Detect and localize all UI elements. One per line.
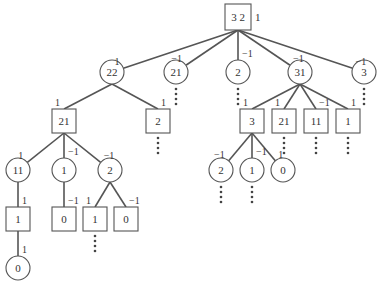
- continuation-dot: [94, 240, 97, 243]
- continuation-dot: [363, 103, 366, 106]
- continuation-dot: [251, 196, 254, 199]
- continuation-dot: [363, 98, 366, 101]
- circle-node: 0: [6, 256, 30, 280]
- node-label: 3: [249, 115, 255, 127]
- node-label: 1: [345, 115, 351, 127]
- continuation-dot: [157, 137, 160, 140]
- edge-label: −1: [68, 195, 79, 206]
- box-node: 2: [146, 109, 170, 133]
- edge-label: −1: [356, 56, 367, 67]
- node-label: 0: [15, 262, 21, 274]
- continuation-dot: [283, 152, 286, 155]
- node-label: 21: [59, 115, 70, 127]
- tree-edge: [95, 182, 110, 207]
- node-label: 1: [249, 164, 255, 176]
- circle-node: 2: [209, 158, 233, 182]
- edge-label: 1: [161, 97, 166, 108]
- continuation-dot: [94, 235, 97, 238]
- box-node: 1: [336, 109, 360, 133]
- edge-label: −1: [242, 48, 253, 59]
- node-label: 0: [61, 213, 67, 225]
- continuation-dot: [283, 147, 286, 150]
- box-node: 0: [114, 207, 138, 231]
- circle-node: 1: [52, 158, 76, 182]
- continuation-dot: [237, 103, 240, 106]
- continuation-dot: [94, 250, 97, 253]
- node-label: 1: [15, 213, 21, 225]
- edge-label: 1: [22, 244, 27, 255]
- continuation-dot: [347, 152, 350, 155]
- continuation-dot: [347, 142, 350, 145]
- edge-label: 1: [18, 150, 23, 161]
- continuation-dot: [157, 152, 160, 155]
- continuation-dot: [157, 147, 160, 150]
- continuation-dot: [237, 98, 240, 101]
- continuation-dot: [220, 196, 223, 199]
- box-node: 1: [83, 207, 107, 231]
- continuation-dot: [220, 201, 223, 204]
- continuation-dot: [175, 103, 178, 106]
- edge-label: −1: [214, 149, 225, 160]
- continuation-dot: [237, 88, 240, 91]
- tree-edge: [27, 133, 64, 162]
- edge-label: −1: [319, 97, 330, 108]
- continuation-dot: [363, 88, 366, 91]
- continuation-dot: [157, 142, 160, 145]
- continuation-dot: [175, 88, 178, 91]
- edge-label: 1: [278, 149, 283, 160]
- root-side-label: 1: [255, 11, 261, 23]
- continuation-dot: [283, 142, 286, 145]
- continuation-dot: [220, 186, 223, 189]
- continuation-dot: [315, 142, 318, 145]
- continuation-dot: [363, 93, 366, 96]
- continuation-dot: [251, 201, 254, 204]
- tree-edge: [186, 30, 238, 65]
- node-label: 21: [171, 66, 182, 78]
- box-node: 21: [272, 109, 296, 133]
- continuation-dot: [220, 191, 223, 194]
- continuation-dot: [175, 98, 178, 101]
- edge-label: −1: [171, 53, 182, 64]
- node-label: 1: [92, 213, 98, 225]
- edge-label: 1: [114, 56, 119, 67]
- node-label: 0: [280, 164, 286, 176]
- node-label: 2: [155, 115, 161, 127]
- tree-edge: [64, 84, 112, 109]
- edge-label: −1: [104, 150, 115, 161]
- box-node: 11: [304, 109, 328, 133]
- tree-edge: [229, 133, 252, 161]
- tree-edge: [112, 84, 158, 109]
- tree-edge: [110, 182, 126, 207]
- edge-label: −1: [256, 146, 267, 157]
- continuation-dot: [237, 93, 240, 96]
- node-label: 31: [295, 66, 306, 78]
- edge-label: 1: [22, 195, 27, 206]
- edge-label: 1: [86, 195, 91, 206]
- continuation-dot: [347, 147, 350, 150]
- circle-node: 22: [100, 60, 124, 84]
- continuation-dot: [315, 137, 318, 140]
- box-node: 21: [52, 109, 76, 133]
- circle-node: 11: [6, 158, 30, 182]
- continuation-dot: [315, 147, 318, 150]
- node-label: 2: [107, 164, 113, 176]
- node-label: 3 2: [231, 11, 245, 23]
- node-label: 0: [123, 213, 129, 225]
- node-label: 2: [218, 164, 224, 176]
- node-label: 2: [235, 66, 241, 78]
- node-label: 11: [311, 115, 322, 127]
- node-label: 22: [107, 66, 118, 78]
- node-label: 21: [279, 115, 290, 127]
- game-tree-diagram: 3 2122212313212321111111221010100 1−1−1−…: [0, 0, 377, 288]
- node-label: 1: [61, 164, 67, 176]
- circle-node: 1: [240, 158, 264, 182]
- circle-node: 0: [271, 158, 295, 182]
- edge-label: −1: [293, 53, 304, 64]
- edge-label: 1: [275, 97, 280, 108]
- node-label: 11: [13, 164, 24, 176]
- box-node: 1: [6, 207, 30, 231]
- continuation-dot: [94, 245, 97, 248]
- circle-node: 2: [226, 60, 250, 84]
- edge-label: −1: [68, 146, 79, 157]
- edge-label: −1: [129, 195, 140, 206]
